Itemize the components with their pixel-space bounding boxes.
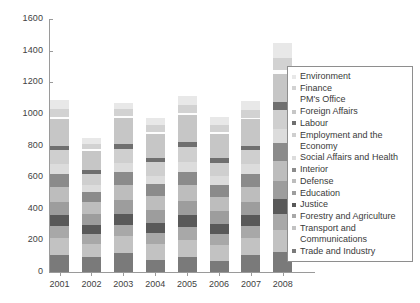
bar-segment (241, 110, 260, 118)
bar-segment (178, 115, 197, 143)
y-axis-tick-label: 1600 (23, 13, 43, 23)
bar-segment (82, 234, 101, 243)
bar-segment (146, 260, 165, 272)
bar-segment (114, 163, 133, 172)
x-axis-tick-mark (251, 272, 252, 276)
plot-area (50, 19, 285, 272)
y-axis-tick-label: 1200 (23, 76, 43, 86)
legend-item: Interior (292, 164, 409, 175)
bar-segment (50, 238, 69, 255)
bar-segment (146, 244, 165, 260)
bar-2006 (210, 19, 229, 272)
bar-segment (210, 211, 229, 224)
bar-2003 (114, 19, 133, 272)
legend-swatch-icon (292, 121, 296, 125)
bar-segment (210, 163, 229, 176)
bar-segment (114, 214, 133, 225)
bar-segment (114, 116, 133, 118)
bar-segment (146, 162, 165, 175)
bar-segment (82, 144, 101, 150)
legend-item: Justice (292, 199, 409, 210)
bar-segment (146, 233, 165, 244)
bar-segment (114, 200, 133, 213)
legend-label: Labour (300, 118, 328, 129)
y-axis-tick: 0 (0, 272, 50, 273)
bar-segment (114, 253, 133, 272)
bar-segment (146, 118, 165, 125)
bar-segment (210, 185, 229, 197)
legend-item: Labour (292, 118, 409, 129)
bar-segment (210, 117, 229, 125)
y-axis-tick: 800 (0, 146, 50, 147)
bar-segment (82, 149, 101, 151)
x-axis-tick-mark (187, 272, 188, 276)
bar-segment (50, 109, 69, 117)
bar-segment (178, 240, 197, 257)
bar-segment (50, 215, 69, 226)
bar-segment (82, 225, 101, 234)
legend-label: Transport and Communications (300, 223, 409, 245)
bar-segment (241, 174, 260, 187)
bar-segment (146, 158, 165, 162)
legend-label: Finance (300, 83, 332, 94)
stacked-bar-chart: 02004006008001000120014001600 2001200220… (0, 0, 420, 303)
bar-segment (210, 158, 229, 162)
legend-item: Social Affairs and Health (292, 152, 409, 163)
bar-segment (241, 215, 260, 226)
bar-segment (114, 109, 133, 116)
x-axis-tick-label-2007: 2007 (234, 279, 268, 289)
bar-segment (178, 227, 197, 240)
legend-swatch-icon (292, 156, 296, 160)
bar-segment (114, 103, 133, 109)
bar-segment (178, 147, 197, 162)
bar-segment (114, 118, 133, 144)
legend-label: Social Affairs and Health (300, 152, 398, 163)
legend-swatch-icon (292, 214, 296, 218)
x-axis-tick-mark (283, 272, 284, 276)
bar-2004 (146, 19, 165, 272)
bar-segment (241, 164, 260, 173)
bar-segment (50, 100, 69, 109)
x-axis-tick-label-2005: 2005 (170, 279, 204, 289)
bar-segment (241, 226, 260, 238)
legend-label: Foreign Affairs (300, 106, 358, 117)
x-axis-tick-mark (60, 272, 61, 276)
bar-segment (210, 134, 229, 159)
bar-2007 (241, 19, 260, 272)
bar-segment (146, 223, 165, 233)
bar-segment (50, 119, 69, 146)
bar-segment (178, 257, 197, 272)
bar-segment (82, 138, 101, 144)
y-axis-tick-label: 800 (28, 140, 43, 150)
bar-segment (178, 142, 197, 147)
legend-swatch-icon (292, 110, 296, 114)
x-axis-tick-label-2008: 2008 (266, 279, 300, 289)
bar-segment (114, 225, 133, 237)
legend-item: PM's Office (292, 94, 409, 105)
bar-segment (82, 257, 101, 272)
bar-segment (82, 151, 101, 170)
legend-label: Education (300, 188, 340, 199)
bar-segment (114, 149, 133, 163)
bar-segment (146, 134, 165, 158)
bar-segment (210, 125, 229, 132)
bar-segment (114, 172, 133, 185)
x-axis-tick-label-2006: 2006 (202, 279, 236, 289)
x-axis-line (49, 272, 315, 273)
x-axis-tick-label-2004: 2004 (138, 279, 172, 289)
legend-item: Defense (292, 176, 409, 187)
bar-segment (273, 43, 292, 58)
legend-swatch-icon (292, 226, 296, 230)
y-axis-tick-label: 200 (28, 234, 43, 244)
y-axis-tick-mark (49, 272, 53, 273)
y-axis-tick: 1400 (0, 51, 50, 52)
bar-segment (241, 101, 260, 110)
legend-label: Environment (300, 71, 351, 82)
bar-segment (146, 196, 165, 210)
legend-item: Finance (292, 83, 409, 94)
bar-segment (241, 118, 260, 120)
bar-segment (210, 245, 229, 261)
bar-segment (82, 244, 101, 257)
legend-swatch-icon (292, 98, 296, 102)
bar-segment (178, 113, 197, 115)
